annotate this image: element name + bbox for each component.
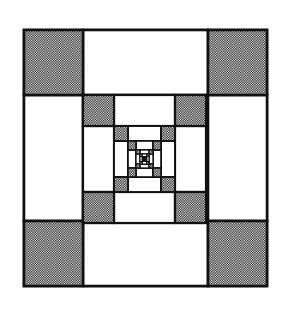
level-5-corner-top-right	[149, 150, 153, 154]
level-4-corner-bottom-right	[153, 168, 161, 177]
level-1-edge-top	[83, 30, 208, 95]
level-4-corner-top-right	[153, 141, 161, 150]
level-3-edge-right	[161, 141, 175, 177]
level-5-edge-bottom	[140, 164, 149, 168]
level-4-edge-bottom	[136, 168, 153, 177]
level-3-edge-top	[128, 126, 161, 141]
level-5-corner-bottom-left	[136, 164, 140, 168]
level-4-edge-top	[136, 141, 153, 150]
level-5-edge-left	[136, 154, 140, 164]
level-1-edge-left	[24, 95, 83, 221]
level-6-center	[142, 157, 147, 162]
level-2-corner-bottom-right	[175, 192, 206, 223]
level-3-corner-bottom-left	[114, 177, 128, 192]
level-3-corner-bottom-right	[161, 177, 175, 192]
level-5-corner-top-left	[136, 150, 140, 154]
level-2-edge-bottom	[114, 192, 175, 223]
level-2-edge-top	[114, 95, 175, 126]
level-1-edge-bottom	[83, 221, 208, 286]
nested-squares-diagram	[0, 0, 282, 309]
level-3-corner-top-left	[114, 126, 128, 141]
level-1-corner-top-right	[208, 30, 267, 95]
level-2-edge-right	[175, 126, 206, 192]
level-1-corner-bottom-left	[24, 221, 83, 286]
level-4-corner-top-left	[128, 141, 136, 150]
level-3-corner-top-right	[161, 126, 175, 141]
level-5-edge-top	[140, 150, 149, 154]
level-5-corner-bottom-right	[149, 164, 153, 168]
level-1-corner-bottom-right	[208, 221, 267, 286]
level-2-edge-left	[83, 126, 114, 192]
square-levels	[24, 30, 267, 286]
level-4-edge-left	[128, 150, 136, 168]
level-2-corner-bottom-left	[83, 192, 114, 223]
level-1-edge-right	[208, 95, 267, 221]
level-3-edge-bottom	[128, 177, 161, 192]
level-2-corner-top-left	[83, 95, 114, 126]
level-3-edge-left	[114, 141, 128, 177]
level-1-corner-top-left	[24, 30, 83, 95]
level-4-corner-bottom-left	[128, 168, 136, 177]
level-2-corner-top-right	[175, 95, 206, 126]
level-5-edge-right	[149, 154, 153, 164]
level-4-edge-right	[153, 150, 161, 168]
